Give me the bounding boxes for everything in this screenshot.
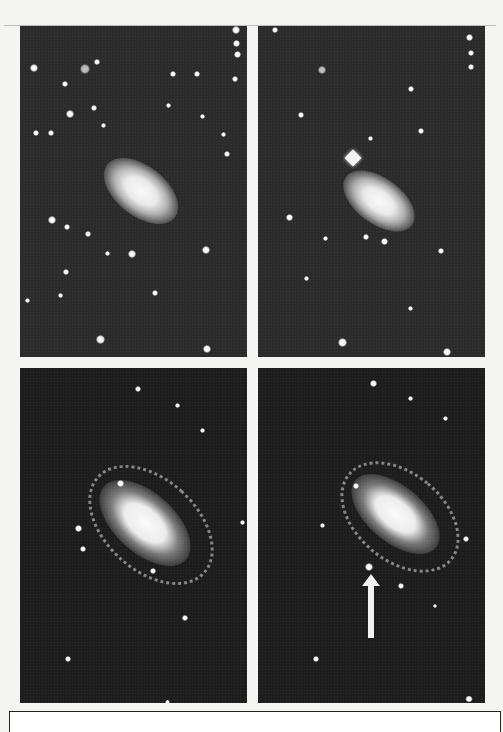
galaxy — [92, 145, 191, 237]
star — [64, 224, 70, 230]
star — [48, 130, 54, 136]
arrow-up-icon — [362, 574, 380, 638]
star — [166, 103, 171, 108]
star — [80, 546, 86, 552]
panel-top-left — [20, 26, 247, 357]
star — [338, 338, 347, 347]
supernova — [365, 563, 373, 571]
star — [105, 251, 110, 256]
star — [58, 293, 63, 298]
star — [468, 50, 474, 56]
star — [408, 86, 414, 92]
star — [232, 76, 238, 82]
star — [62, 81, 68, 87]
star — [117, 480, 124, 487]
star — [286, 214, 293, 221]
star — [194, 71, 200, 77]
star — [30, 64, 38, 72]
star — [468, 64, 474, 70]
star — [165, 700, 170, 703]
panel-top-right — [258, 26, 485, 357]
bright-star-diamond — [345, 150, 362, 167]
star — [465, 696, 473, 702]
star — [381, 238, 388, 245]
star — [200, 428, 205, 433]
star — [408, 396, 413, 401]
spiral-arm — [65, 441, 236, 609]
star — [33, 130, 39, 136]
star — [182, 615, 188, 621]
star — [418, 128, 424, 134]
star — [233, 40, 240, 47]
star — [363, 234, 369, 240]
spiral-arm — [319, 439, 481, 595]
star — [96, 335, 105, 344]
star — [224, 151, 230, 157]
panel-bottom-left — [20, 368, 247, 703]
star — [202, 246, 210, 254]
star — [433, 604, 437, 608]
star — [438, 248, 444, 254]
star — [320, 523, 325, 528]
star — [443, 348, 451, 356]
star — [203, 345, 211, 353]
star — [128, 250, 136, 258]
star — [152, 290, 158, 296]
star — [370, 380, 377, 387]
star — [298, 112, 304, 118]
star — [65, 656, 71, 662]
star — [221, 132, 226, 137]
star — [272, 27, 278, 33]
star — [80, 64, 90, 74]
star — [75, 525, 82, 532]
star — [353, 483, 359, 489]
star — [175, 403, 180, 408]
star — [408, 306, 413, 311]
galaxy — [332, 158, 425, 243]
panel-bottom-right — [258, 368, 485, 703]
star — [150, 568, 156, 574]
star — [66, 110, 74, 118]
star — [200, 114, 205, 119]
star — [101, 123, 106, 128]
star — [85, 231, 91, 237]
star — [48, 216, 56, 224]
star — [240, 520, 245, 525]
star — [91, 105, 97, 111]
star — [63, 269, 69, 275]
star — [304, 276, 309, 281]
star — [25, 298, 30, 303]
star — [135, 386, 141, 392]
star — [323, 236, 328, 241]
star — [232, 26, 240, 34]
star — [318, 66, 326, 74]
star — [368, 136, 373, 141]
star — [443, 416, 448, 421]
caption-frame — [9, 711, 501, 732]
star — [234, 51, 241, 58]
star — [94, 59, 100, 65]
star — [313, 656, 319, 662]
star — [398, 583, 404, 589]
star — [466, 34, 473, 41]
star — [463, 536, 469, 542]
star — [170, 71, 176, 77]
